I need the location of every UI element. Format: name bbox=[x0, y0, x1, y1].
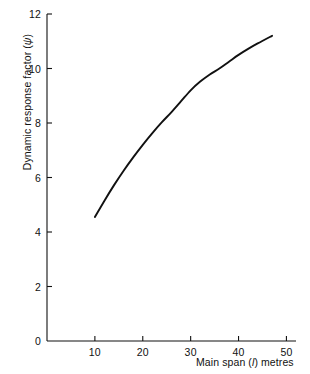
x-axis-title: Main span (l) metres bbox=[196, 356, 294, 368]
x-axis-title-prefix: Main span ( bbox=[196, 356, 252, 368]
y-axis-title: Dynamic response factor (ψ) bbox=[21, 0, 33, 207]
data-series-line bbox=[95, 36, 272, 217]
x-axis-title-suffix: ) metres bbox=[254, 356, 293, 368]
y-axis-tick-label: 2 bbox=[14, 281, 41, 293]
plot-area bbox=[0, 0, 310, 374]
y-axis-title-suffix: ) bbox=[21, 34, 33, 38]
psi-symbol: ψ bbox=[21, 37, 33, 45]
x-axis-tick-label: 10 bbox=[89, 346, 101, 358]
y-axis-tick-label: 4 bbox=[14, 226, 41, 238]
y-axis-title-prefix: Dynamic response factor ( bbox=[21, 45, 33, 170]
y-axis-tick-label: 0 bbox=[14, 335, 41, 347]
x-axis-ticks bbox=[95, 336, 287, 341]
x-axis-tick-label: 30 bbox=[185, 346, 197, 358]
chart-container: 024681012 1020304050 Dynamic response fa… bbox=[0, 0, 310, 374]
x-axis-tick-label: 20 bbox=[137, 346, 149, 358]
y-axis-ticks bbox=[47, 14, 52, 287]
